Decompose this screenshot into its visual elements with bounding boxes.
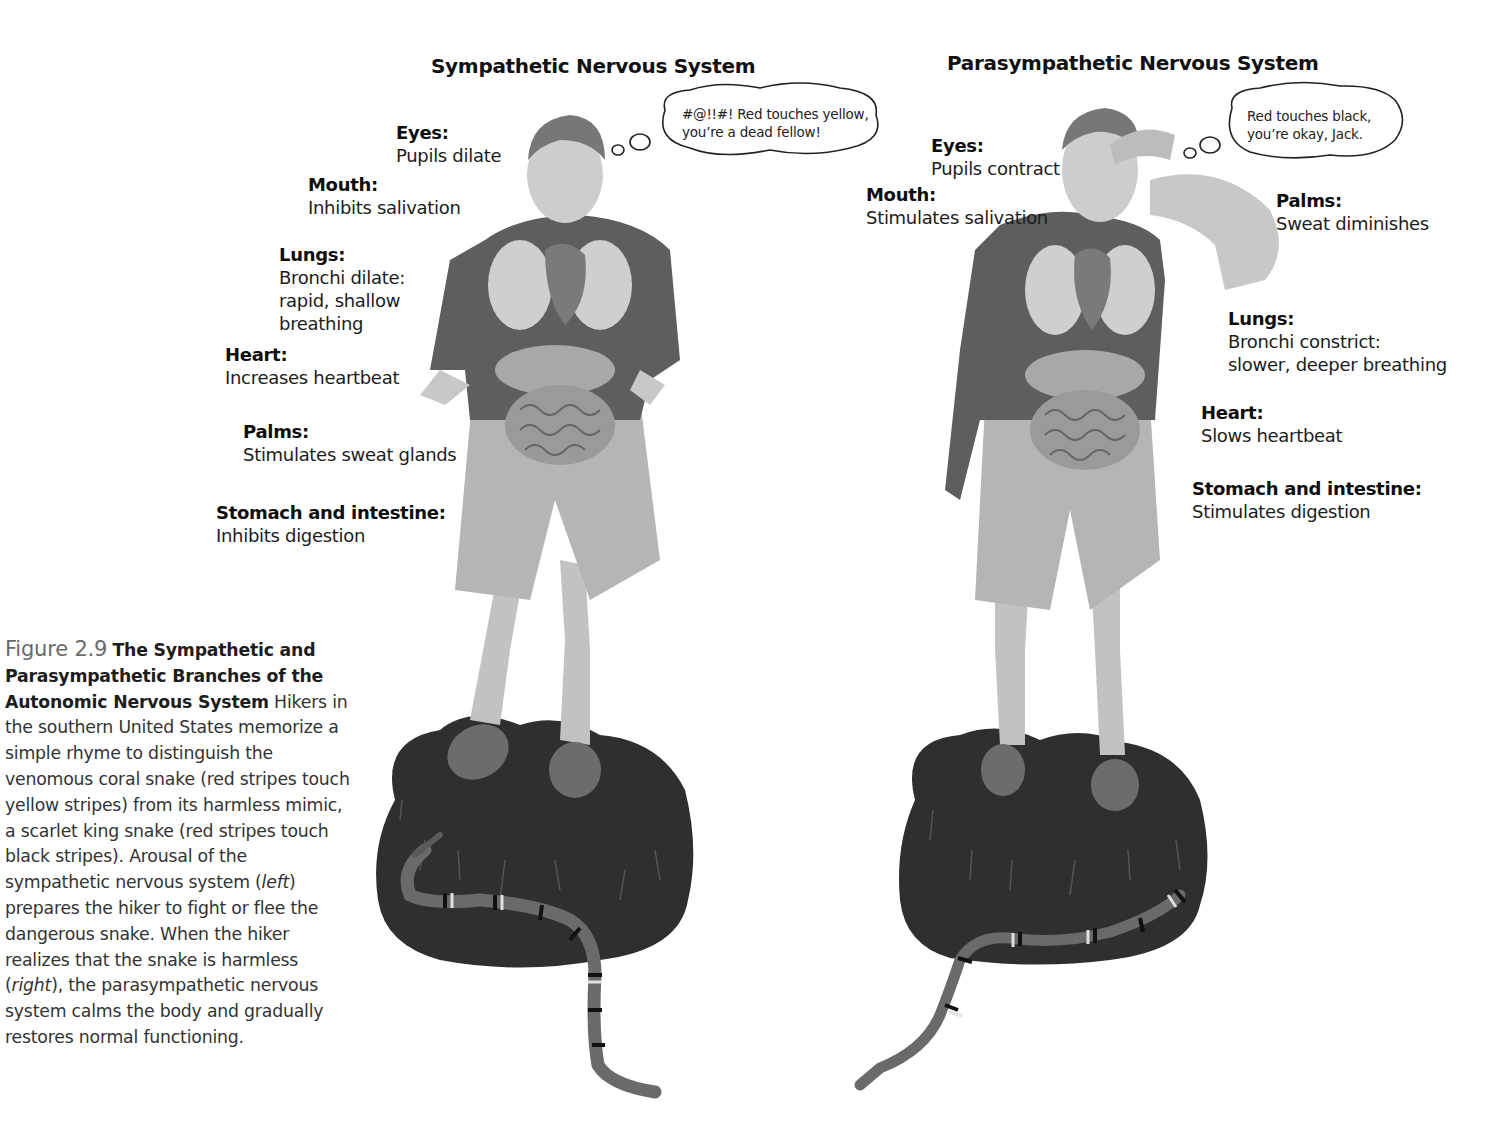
label-heading: Stomach and intestine: (216, 501, 446, 524)
caption-text-3: ), the parasympathetic nervous system ca… (5, 975, 323, 1047)
label-left-mouth: Mouth: Inhibits salivation (308, 173, 461, 219)
label-description: Sweat diminishes (1276, 212, 1429, 235)
label-left-palms: Palms: Stimulates sweat glands (243, 420, 456, 466)
label-description: Increases heartbeat (225, 366, 399, 389)
label-description: Slows heartbeat (1201, 424, 1342, 447)
label-heading: Eyes: (396, 121, 501, 144)
label-right-mouth: Mouth: Stimulates salivation (866, 183, 1048, 229)
shoe-right-right-hiker (1091, 759, 1139, 811)
label-heading: Palms: (243, 420, 456, 443)
label-heading: Lungs: (279, 243, 405, 266)
label-description: Bronchi dilate: rapid, shallow breathing (279, 266, 405, 335)
label-description: Pupils contract (931, 157, 1060, 180)
grass-mound-right (899, 729, 1208, 965)
label-left-lungs: Lungs: Bronchi dilate: rapid, shallow br… (279, 243, 405, 335)
caption-em-left: left (262, 872, 290, 892)
label-heading: Eyes: (931, 134, 1060, 157)
label-heading: Stomach and intestine: (1192, 477, 1422, 500)
label-heading: Heart: (1201, 401, 1342, 424)
label-left-heart: Heart: Increases heartbeat (225, 343, 399, 389)
label-right-heart: Heart: Slows heartbeat (1201, 401, 1342, 447)
shoe-left-right-hiker (981, 744, 1025, 796)
label-description: Bronchi constrict: slower, deeper breath… (1228, 330, 1447, 376)
label-right-stomach: Stomach and intestine: Stimulates digest… (1192, 477, 1422, 523)
figure-caption: Figure 2.9 The Sympathetic and Parasympa… (5, 637, 350, 1051)
label-description: Stimulates sweat glands (243, 443, 456, 466)
label-heading: Mouth: (308, 173, 461, 196)
label-description: Stimulates salivation (866, 206, 1048, 229)
label-right-palms: Palms: Sweat diminishes (1276, 189, 1429, 235)
label-heading: Palms: (1276, 189, 1429, 212)
label-right-eyes: Eyes: Pupils contract (931, 134, 1060, 180)
label-heading: Mouth: (866, 183, 1048, 206)
label-description: Stimulates digestion (1192, 500, 1422, 523)
thought-text-left: #@!!#! Red touches yellow, you’re a dead… (682, 105, 869, 141)
label-description: Inhibits digestion (216, 524, 446, 547)
thought-text-right: Red touches black, you’re okay, Jack. (1247, 107, 1371, 143)
label-left-stomach: Stomach and intestine: Inhibits digestio… (216, 501, 446, 547)
label-right-lungs: Lungs: Bronchi constrict: slower, deeper… (1228, 307, 1447, 376)
label-left-eyes: Eyes: Pupils dilate (396, 121, 501, 167)
caption-text-1: Hikers in the southern United States mem… (5, 692, 350, 893)
label-description: Inhibits salivation (308, 196, 461, 219)
label-description: Pupils dilate (396, 144, 501, 167)
figure-number: Figure 2.9 (5, 637, 107, 661)
label-heading: Lungs: (1228, 307, 1447, 330)
caption-em-right: right (12, 975, 52, 995)
label-heading: Heart: (225, 343, 399, 366)
